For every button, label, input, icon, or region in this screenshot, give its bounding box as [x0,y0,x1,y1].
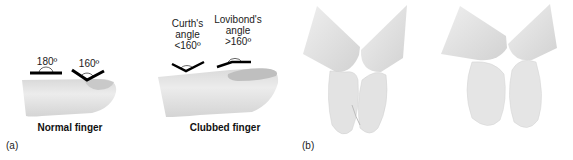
angle-180-label: 180º [32,56,62,67]
schamroth-window-drawing-1 [303,5,407,134]
panel-b-label: (b) [302,140,314,151]
curths-angle-line3: <160º [165,40,210,51]
illustration-canvas [0,0,573,160]
curths-angle-line2: angle [165,29,210,40]
lovibonds-angle-line3: >160º [210,36,266,47]
curths-angle-line1: Curth's [165,18,210,29]
lovibonds-angle-line1: Lovibond's [210,14,266,25]
normal-finger-drawing [22,67,116,117]
curths-angle-label: Curth's angle <160º [165,18,210,51]
lovibonds-angle-label: Lovibond's angle >160º [210,14,266,47]
clubbed-finger-caption: Clubbed finger [175,122,275,133]
normal-finger-caption: Normal finger [20,122,120,133]
schamroth-window-drawing-2 [441,4,557,128]
angle-160-label: 160º [74,58,104,69]
panel-a-label: (a) [6,140,18,151]
lovibonds-angle-line2: angle [210,25,266,36]
clubbed-finger-drawing [158,58,278,117]
